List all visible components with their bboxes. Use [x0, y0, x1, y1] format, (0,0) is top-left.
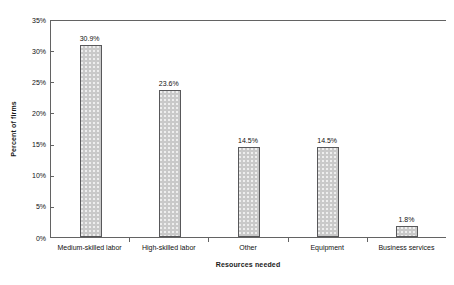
x-tick-mark — [208, 238, 209, 242]
y-tick-label: 15% — [32, 140, 46, 150]
y-tick-label: 35% — [32, 15, 46, 25]
x-tick-mark — [129, 238, 130, 242]
bar — [396, 226, 418, 237]
bar-value-label: 14.5% — [228, 137, 268, 144]
y-axis-ticks: 0%5%10%15%20%25%30%35% — [0, 20, 46, 238]
y-tick-mark — [50, 51, 54, 52]
x-category-label: Medium-skilled labor — [57, 244, 121, 251]
bar — [238, 147, 260, 237]
x-category-label: Other — [239, 244, 257, 251]
y-tick-mark — [50, 145, 54, 146]
y-tick-label: 25% — [32, 77, 46, 87]
y-tick-label: 10% — [32, 171, 46, 181]
bar-value-label: 30.9% — [70, 35, 110, 42]
bar-value-label: 1.8% — [386, 216, 426, 223]
x-axis-title: Resources needed — [50, 261, 446, 268]
x-category-label: Business services — [378, 244, 434, 251]
x-tick-mark — [288, 238, 289, 242]
y-tick-label: 5% — [36, 202, 46, 212]
bar-value-label: 14.5% — [307, 137, 347, 144]
bar-chart-figure: Percent of firms 0%5%10%15%20%25%30%35% … — [0, 0, 454, 285]
bar-value-label: 23.6% — [149, 80, 189, 87]
y-tick-mark — [50, 82, 54, 83]
y-tick-mark — [50, 207, 54, 208]
x-category-label: Equipment — [310, 244, 343, 251]
y-tick-mark — [50, 176, 54, 177]
x-tick-mark — [367, 238, 368, 242]
bar — [80, 45, 102, 237]
y-tick-label: 20% — [32, 108, 46, 118]
x-category-label: High-skilled labor — [142, 244, 196, 251]
y-tick-label: 0% — [36, 233, 46, 243]
plot-area — [50, 20, 446, 238]
bar — [317, 147, 339, 237]
bar — [159, 90, 181, 237]
y-tick-label: 30% — [32, 46, 46, 56]
y-tick-mark — [50, 113, 54, 114]
